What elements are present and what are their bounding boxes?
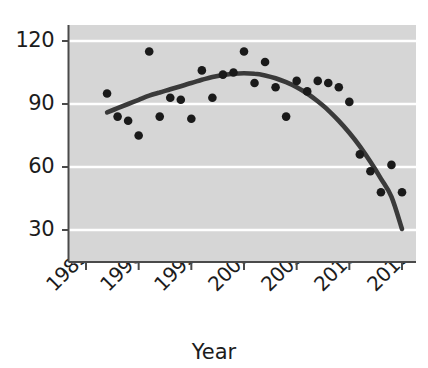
plot-background xyxy=(69,25,416,262)
data-point xyxy=(366,167,375,176)
data-point xyxy=(377,188,386,197)
data-point xyxy=(387,161,396,170)
scatter-chart: 120 90 60 30 1985 1990 1995 2000 2005 20… xyxy=(0,0,428,368)
data-point xyxy=(187,114,196,123)
data-point xyxy=(303,87,312,96)
data-point xyxy=(145,47,154,56)
data-point xyxy=(124,117,133,126)
plot-area xyxy=(0,0,428,368)
data-point xyxy=(198,66,207,75)
data-point xyxy=(398,188,407,197)
data-point xyxy=(219,70,228,79)
data-point xyxy=(113,112,122,121)
data-point xyxy=(324,79,333,88)
data-point xyxy=(103,89,112,98)
x-axis-ticks xyxy=(86,262,402,270)
data-point xyxy=(335,83,344,92)
data-point xyxy=(250,79,259,88)
data-point xyxy=(134,131,143,140)
data-point xyxy=(292,77,301,86)
data-point xyxy=(208,93,217,102)
data-point xyxy=(282,112,291,121)
data-point xyxy=(345,98,354,107)
data-point xyxy=(271,83,280,92)
data-point xyxy=(166,93,175,102)
data-point xyxy=(313,77,322,86)
data-point xyxy=(356,150,365,159)
data-point xyxy=(229,68,238,77)
data-point xyxy=(240,47,249,56)
data-point xyxy=(155,112,164,121)
data-point xyxy=(261,58,270,67)
data-point xyxy=(177,96,186,105)
